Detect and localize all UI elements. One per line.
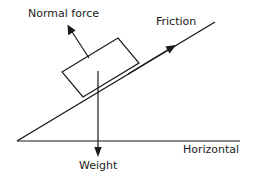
- normal-force-arrowhead-icon: [68, 25, 76, 36]
- friction-arrowhead-icon: [165, 45, 176, 54]
- normal-force-vector-shaft: [71, 30, 90, 59]
- weight-label: Weight: [79, 159, 118, 172]
- diagram-canvas: Normal force Friction Horizontal Weight: [0, 0, 257, 179]
- horizontal-label: Horizontal: [183, 143, 239, 156]
- friction-label: Friction: [156, 15, 196, 28]
- normal-force-label: Normal force: [28, 7, 99, 20]
- inclined-plane-diagram: Normal force Friction Horizontal Weight: [0, 0, 257, 179]
- block-shape: [62, 38, 139, 97]
- weight-arrowhead-icon: [94, 147, 101, 157]
